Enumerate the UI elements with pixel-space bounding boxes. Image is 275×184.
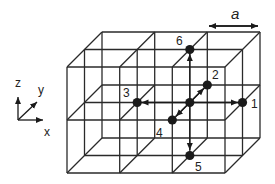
- node-1: [238, 98, 247, 107]
- y-axis-label: y: [38, 83, 44, 97]
- label-6: 6: [176, 34, 183, 48]
- lattice-diagram: a 1 2 3 4 5 6 z y x: [0, 0, 275, 184]
- center-node: [185, 98, 194, 107]
- label-4: 4: [156, 126, 163, 140]
- x-axis-label: x: [44, 125, 50, 139]
- axes-triad: [18, 97, 43, 120]
- lattice-constant-label: a: [231, 5, 239, 22]
- label-5: 5: [195, 160, 202, 174]
- node-5: [185, 151, 194, 160]
- label-1: 1: [251, 97, 258, 111]
- lattice-constant-indicator: a: [209, 5, 258, 26]
- label-2: 2: [212, 68, 219, 82]
- node-3: [133, 98, 142, 107]
- node-2: [203, 80, 212, 89]
- label-3: 3: [123, 86, 130, 100]
- node-6: [185, 45, 194, 54]
- y-axis-arrow: [18, 102, 37, 120]
- z-axis-label: z: [15, 76, 21, 90]
- node-4: [168, 115, 177, 124]
